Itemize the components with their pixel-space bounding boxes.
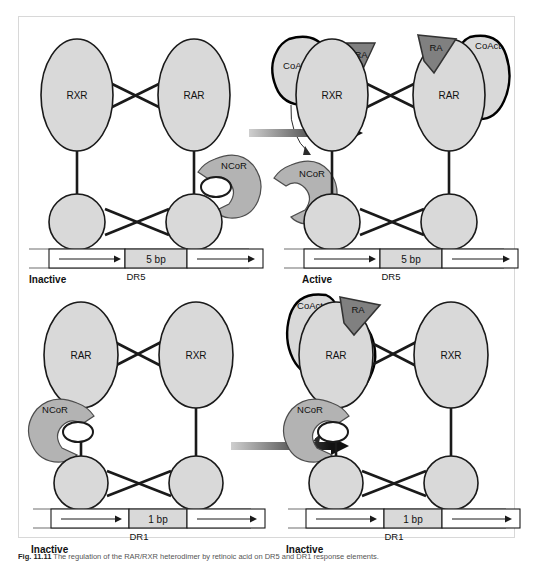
panel-top-left-diagram: RXR RAR NCoR 5 bp DR5 Inactive (19, 17, 269, 277)
state-label-inactive: Inactive (29, 274, 67, 285)
spacer-label: 5 bp (146, 254, 166, 265)
panel-bottom-left-diagram: RAR RXR NCoR 1 bp DR1 Inactive (19, 285, 269, 537)
receptor-dbd-right (424, 456, 478, 510)
panel-bottom-right: CoAct RAR RXR RA NCoR 1 bp DR1 Inactive (274, 285, 524, 537)
figure-frame: RXR RAR NCoR 5 bp DR5 Inactive CoAct RA (18, 16, 515, 538)
figure-caption: Fig. 11.11 The regulation of the RAR/RXR… (18, 552, 518, 563)
receptor-label-rar: RAR (438, 90, 459, 101)
receptor-label-rxr: RXR (66, 90, 87, 101)
ncor-interaction-loop (201, 177, 231, 197)
receptor-label-rxr: RXR (185, 350, 206, 361)
receptor-label-rar: RAR (183, 90, 204, 101)
spacer-label: 5 bp (401, 254, 421, 265)
panel-bottom-right-diagram: CoAct RAR RXR RA NCoR 1 bp DR1 Inactive (274, 285, 524, 537)
state-label-active: Active (302, 274, 332, 285)
panel-top-left: RXR RAR NCoR 5 bp DR5 Inactive (19, 17, 269, 277)
panel-top-right-diagram: CoAct RXR RAR RA 5 bp DR5 Active (274, 17, 524, 277)
coactivator-label-coact: CoAct (475, 40, 501, 51)
panel-top-right: CoAct RXR RAR RA 5 bp DR5 Active (274, 17, 524, 277)
response-element-label: DR5 (126, 271, 145, 282)
response-element-label: DR1 (384, 531, 403, 542)
response-element-label: DR5 (381, 271, 400, 282)
receptor-dbd-left (49, 194, 105, 250)
ncor-interaction-loop (318, 422, 348, 442)
ligand-ra-label: RA (429, 42, 443, 53)
spacer-label: 1 bp (403, 514, 423, 525)
spacer-label: 1 bp (148, 514, 168, 525)
figure-caption-text: The regulation of the RAR/RXR heterodime… (53, 552, 379, 561)
receptor-label-rxr: RXR (440, 350, 461, 361)
corepressor-label-ncor: NCoR (297, 404, 323, 415)
receptor-dbd-left (54, 456, 108, 510)
panel-bottom-left: RAR RXR NCoR 1 bp DR1 Inactive (19, 285, 269, 537)
response-element-label: DR1 (129, 531, 148, 542)
receptor-dbd-right (166, 194, 222, 250)
receptor-dbd-right (421, 194, 477, 250)
receptor-label-rar: RAR (325, 350, 346, 361)
receptor-dbd-left (309, 456, 363, 510)
corepressor-label-ncor: NCoR (42, 404, 68, 415)
receptor-label-rxr: RXR (321, 90, 342, 101)
receptor-dbd-right (169, 456, 223, 510)
corepressor-label-ncor: NCoR (221, 160, 247, 171)
ligand-ra-label: RA (351, 304, 365, 315)
receptor-dbd-left (304, 194, 360, 250)
receptor-label-rar: RAR (70, 350, 91, 361)
ncor-interaction-loop (63, 422, 93, 442)
figure-caption-number: Fig. 11.11 (18, 552, 51, 561)
